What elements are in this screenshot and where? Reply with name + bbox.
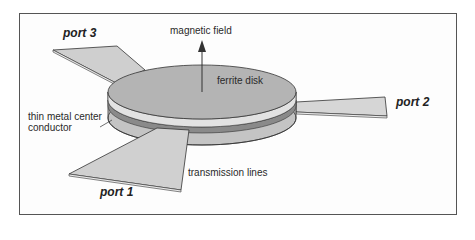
center-conductor-label-line2: conductor <box>28 122 72 133</box>
magnetic-field-label: magnetic field <box>170 25 232 36</box>
center-conductor-label-line1: thin metal center <box>28 111 102 122</box>
transmission-lines-label: transmission lines <box>188 167 267 178</box>
port3-label: port 3 <box>63 28 96 39</box>
port1-label: port 1 <box>100 187 133 198</box>
ferrite-disk-label: ferrite disk <box>217 75 263 86</box>
port2-label: port 2 <box>396 97 429 108</box>
port2-strip <box>296 97 387 118</box>
port1-strip <box>69 128 189 192</box>
